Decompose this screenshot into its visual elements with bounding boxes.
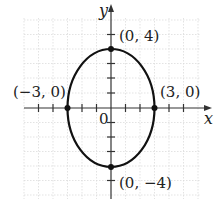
point-top (108, 46, 114, 52)
point-left (65, 105, 71, 111)
origin-label: 0 (99, 110, 109, 128)
point-label-bottom: (0, −4) (119, 174, 172, 192)
ellipse-diagram: y x 0 (0, 4) (−3, 0) (3, 0) (0, −4) (0, 0, 217, 199)
x-axis-label: x (204, 109, 213, 128)
point-bottom (108, 164, 114, 170)
point-label-top: (0, 4) (119, 27, 159, 45)
y-axis-label: y (98, 1, 109, 20)
axes (24, 8, 208, 199)
point-label-right: (3, 0) (160, 83, 200, 101)
y-axis-arrow-icon (108, 4, 114, 12)
point-right (152, 105, 158, 111)
point-label-left: (−3, 0) (13, 83, 66, 101)
